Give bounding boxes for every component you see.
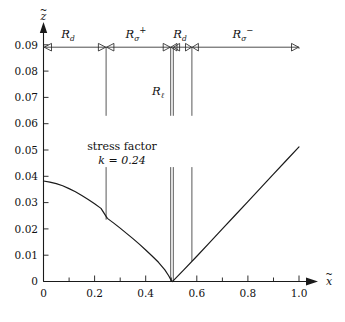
axes-group <box>40 22 318 285</box>
y-tick-label-4: 0.04 <box>15 170 39 182</box>
y-tick-label-0: 0 <box>31 275 38 287</box>
region-bar-group <box>44 43 300 51</box>
x-tick-label-5: 1.0 <box>291 287 308 299</box>
y-tick-label-9: 0.09 <box>15 39 38 51</box>
figure-container: z ~ x ~ 0 0.01 0.02 0.03 0.04 0.05 0.06 … <box>0 0 345 322</box>
x-tick-label-0: 0 <box>40 287 47 299</box>
x-axis-arrow-icon <box>306 278 318 286</box>
region-labels-group: Rd Rσ+ Rd Rσ− Rℓ <box>60 25 253 100</box>
x-tick-label-4: 0.8 <box>240 287 257 299</box>
region-label-rd-1: Rd <box>60 27 75 43</box>
x-tick-label-1: 0.2 <box>86 287 103 299</box>
annotation-group: stress factor k = 0.24 <box>87 140 157 167</box>
y-tick-label-2: 0.02 <box>15 223 38 235</box>
y-axis-label-accent: ~ <box>40 5 48 15</box>
region-label-rd-2-sub: d <box>182 34 187 43</box>
annotation-stress-factor: stress factor <box>87 140 157 153</box>
y-tick-label-7: 0.07 <box>15 91 38 103</box>
region-label-sigma-minus-sup: − <box>246 25 253 35</box>
y-tick-label-5: 0.05 <box>15 144 38 156</box>
region-label-sigma-plus-sup: + <box>139 25 146 35</box>
y-tick-label-6: 0.06 <box>15 117 39 129</box>
x-tick-group: 0 0.2 0.4 0.6 0.8 1.0 <box>40 276 307 300</box>
x-tick-label-2: 0.4 <box>137 287 154 299</box>
region-label-rl-sub: ℓ <box>161 91 165 100</box>
data-curve-group <box>44 147 300 282</box>
stress-factor-plot: z ~ x ~ 0 0.01 0.02 0.03 0.04 0.05 0.06 … <box>0 0 345 322</box>
y-tick-label-3: 0.03 <box>15 196 38 208</box>
region-label-sigma-plus: Rσ+ <box>125 25 147 43</box>
y-tick-label-8: 0.08 <box>15 65 38 77</box>
region-label-sigma-minus: Rσ− <box>232 25 254 43</box>
x-tick-label-3: 0.6 <box>188 287 205 299</box>
y-axis-arrow-icon <box>40 22 47 33</box>
y-tick-label-1: 0.01 <box>15 249 38 261</box>
region-label-rd-1-sub: d <box>70 34 75 43</box>
region-label-rl: Rℓ <box>151 84 165 100</box>
annotation-k-value: k = 0.24 <box>98 154 145 167</box>
x-axis-label-accent: ~ <box>325 269 333 279</box>
free-surface-curve <box>44 147 300 282</box>
region-label-rd-2: Rd <box>172 27 187 43</box>
